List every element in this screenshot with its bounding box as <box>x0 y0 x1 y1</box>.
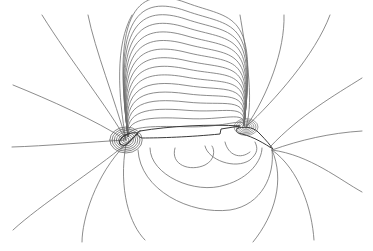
contour-line-fan-right <box>246 15 284 127</box>
contour-line-fan-lower-right <box>272 131 362 150</box>
contour-line-fan-lower-left <box>123 144 145 240</box>
contour-line-fan-left <box>12 140 126 147</box>
contour-line-upper <box>123 0 248 136</box>
contour-figure <box>0 0 373 251</box>
contour-line-upper <box>125 32 247 136</box>
contour-line-lower-loop <box>138 150 272 211</box>
upper-contour-group <box>12 0 362 147</box>
lower-contour-group <box>13 131 362 242</box>
contour-line-upper <box>125 40 246 136</box>
near-body-contour-group <box>110 119 258 153</box>
contour-line-upper <box>127 92 244 136</box>
contour-line-lower-loop <box>225 142 250 156</box>
contour-line-fan-left <box>42 15 126 140</box>
contour-line-fan-lower-left <box>82 144 126 242</box>
contour-line-upper <box>128 109 244 136</box>
contour-line-fan-right <box>270 78 362 147</box>
airfoil-geometry <box>119 125 273 149</box>
contour-line-fan-lower-right <box>272 150 314 240</box>
contour-line-lower-loop <box>150 148 262 188</box>
contour-line-fan-right <box>246 15 330 127</box>
contour-line-lower-loop <box>174 146 214 168</box>
contour-line-upper <box>124 15 247 136</box>
contour-line-upper <box>128 122 244 136</box>
contour-line-fan-lower-left <box>13 144 126 230</box>
contour-line-upper <box>123 6 247 136</box>
contour-line-fan-lower-right <box>272 150 362 192</box>
